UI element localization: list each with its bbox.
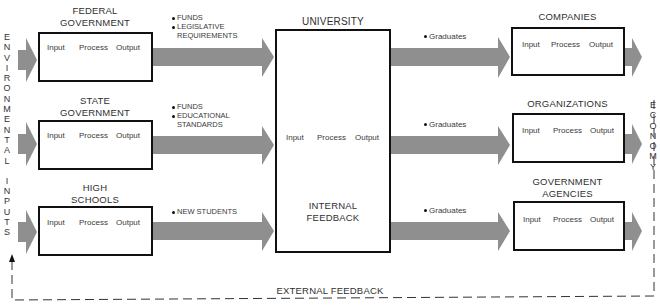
ipo-input-label: Input	[47, 131, 65, 140]
state-government-box	[38, 120, 153, 170]
ipo-process-label: Process	[317, 133, 346, 142]
organizations-flow-item: Graduates	[424, 120, 466, 129]
econ-arrow-3	[624, 212, 642, 251]
ipo-process-label: Process	[553, 215, 582, 224]
ipo-process-label: Process	[553, 126, 582, 135]
env-arrow-1	[18, 38, 37, 82]
government-agencies-title: GOVERNMENTAGENCIES	[510, 176, 625, 200]
env-arrow-2	[18, 122, 37, 166]
federal-government-box	[38, 32, 153, 82]
flow-arrow-state	[153, 126, 274, 165]
ipo-output-label: Output	[355, 133, 379, 142]
university-title: UNIVERSITY	[275, 16, 391, 28]
ipo-input-label: Input	[522, 126, 540, 135]
flow-arrow-companies	[390, 37, 510, 78]
ipo-input-label: Input	[522, 40, 540, 49]
federal-government-title: FEDERALGOVERNMENT	[37, 5, 153, 29]
state-flow-items: FUNDS EDUCATIONAL STANDARDS	[172, 102, 230, 129]
companies-title: COMPANIES	[510, 11, 625, 23]
env-arrow-3	[18, 210, 37, 254]
ipo-output-label: Output	[590, 126, 614, 135]
high-schools-box	[38, 206, 153, 256]
organizations-box	[512, 113, 625, 163]
ipo-process-label: Process	[551, 40, 580, 49]
ipo-input-label: Input	[523, 215, 541, 224]
high-schools-title: HIGHSCHOOLS	[37, 182, 153, 206]
ipo-output-label: Output	[116, 131, 140, 140]
ipo-output-label: Output	[116, 218, 140, 227]
environmental-inputs-label: ENVIRONMENTALINPUTS	[2, 32, 12, 238]
flow-arrow-federal	[153, 38, 274, 77]
flow-arrow-highschool	[153, 212, 274, 251]
ipo-process-label: Process	[79, 131, 108, 140]
economy-label: ECONOMY	[648, 100, 658, 172]
flow-arrow-agencies	[390, 212, 510, 251]
state-government-title: STATEGOVERNMENT	[37, 95, 153, 119]
output-flow-arrows	[390, 37, 510, 251]
ipo-output-label: Output	[590, 215, 614, 224]
ipo-process-label: Process	[79, 43, 108, 52]
agencies-flow-item: Graduates	[424, 206, 466, 215]
environmental-input-arrows	[18, 38, 37, 254]
external-feedback-label: EXTERNAL FEEDBACK	[270, 285, 390, 297]
organizations-title: ORGANIZATIONS	[510, 98, 625, 110]
ipo-input-label: Input	[47, 43, 65, 52]
highschool-flow-items: NEW STUDENTS	[172, 207, 237, 216]
input-flow-arrows	[153, 38, 274, 251]
companies-box	[511, 27, 625, 76]
econ-arrow-2	[624, 124, 642, 164]
economy-arrows	[624, 38, 642, 251]
ipo-output-label: Output	[116, 43, 140, 52]
internal-feedback-label: INTERNALFEEDBACK	[283, 200, 383, 224]
ipo-process-label: Process	[79, 218, 108, 227]
flow-arrow-organizations	[390, 126, 510, 165]
external-feedback-arrowhead	[9, 254, 15, 262]
companies-flow-item: Graduates	[424, 32, 466, 41]
government-agencies-box	[513, 201, 625, 251]
ipo-output-label: Output	[589, 40, 613, 49]
ipo-input-label: Input	[47, 218, 65, 227]
econ-arrow-1	[624, 38, 642, 77]
ipo-input-label: Input	[286, 133, 304, 142]
federal-flow-items: FUNDS LEGISLATIVE REQUIREMENTS	[172, 13, 237, 40]
